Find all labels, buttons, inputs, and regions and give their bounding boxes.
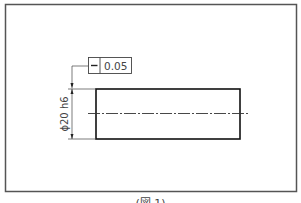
cylinder-outline (96, 89, 240, 139)
figure-caption: (図 1) (0, 194, 301, 203)
tolerance-value: 0.05 (104, 60, 127, 72)
arrowhead-top (71, 89, 74, 94)
leader-line (72, 66, 88, 86)
diameter-label: ϕ20 h6 (59, 96, 70, 131)
drawing-border (6, 5, 297, 192)
arrowhead-bottom (71, 134, 74, 139)
leader-arrowhead (71, 83, 74, 89)
